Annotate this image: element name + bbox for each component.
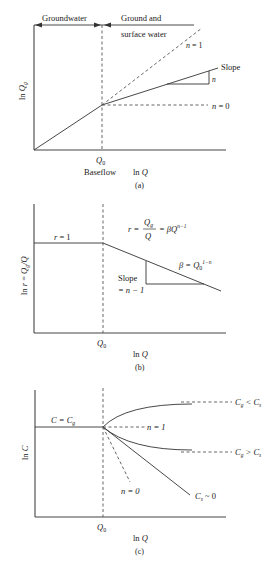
formula-rhs: = βQn−1 [159, 223, 187, 234]
beta-formula: β = Q01−n [178, 259, 212, 271]
caption-a: (a) [135, 181, 144, 190]
q0-label: Q0 [97, 522, 106, 533]
panel-b: r = 1 r = Qg Q = βQn−1 β = Q01−n Slope =… [19, 204, 226, 372]
r1-label: r = 1 [54, 232, 71, 242]
y-axis-label: ln Qg [17, 82, 28, 100]
slope-label: Slope [118, 273, 138, 283]
svg-text:r =: r = [128, 224, 139, 234]
panel-a: Groundwater Ground and surface water n =… [17, 13, 241, 190]
x-axis-label: ln Q [133, 167, 148, 177]
c-eq-cg-label: C = Cg [51, 415, 75, 426]
x-axis-label: ln Q [133, 349, 148, 359]
formula-numerator: Qg [144, 217, 153, 228]
n1-line [102, 28, 202, 105]
cs-zero-line [103, 427, 190, 495]
q0-label: Q0 [96, 155, 105, 166]
y-axis-label: ln C [20, 445, 30, 460]
x-axis-label: ln Q [133, 533, 148, 543]
caption-c: (c) [135, 547, 144, 556]
cg-lt-cs-label: Cg < Cs [235, 397, 261, 408]
n0-label: n = 0 [212, 101, 230, 111]
arrow-right-icon [94, 23, 101, 28]
formula-denominator: Q [145, 231, 151, 241]
ground-surface-label-2: surface water [121, 29, 167, 39]
slope-label: Slope [221, 62, 241, 72]
q0-label: Q0 [97, 338, 106, 349]
n0-line [103, 427, 130, 482]
hydrograph-mixing-figure: Groundwater Ground and surface water n =… [0, 0, 278, 567]
panel-c: C = Cg n = 1 n = 0 Cg < Cs Cg > Cs Cs ~ … [20, 388, 261, 556]
n0-label: n = 0 [121, 486, 140, 496]
y-axis-label: ln r = Qg/Q [19, 256, 30, 295]
cs-zero-label: Cs ~ 0 [195, 491, 216, 502]
caption-b: (b) [135, 363, 145, 372]
qg-curve [34, 68, 218, 150]
arrow-left-icon [35, 23, 42, 28]
ground-surface-label-1: Ground and [121, 13, 162, 23]
arrow-left-icon [104, 23, 111, 28]
baseflow-label: Baseflow [84, 167, 117, 177]
slope-value: n [212, 75, 216, 84]
n1-label: n = 1 [147, 422, 166, 432]
groundwater-label: Groundwater [42, 13, 87, 23]
n1-label: n = 1 [186, 41, 203, 50]
ratio-formula: r = Qg Q = βQn−1 [128, 217, 187, 241]
cg-gt-cs-label: Cg > Cs [235, 447, 261, 458]
slope-value: = n − 1 [118, 285, 144, 295]
